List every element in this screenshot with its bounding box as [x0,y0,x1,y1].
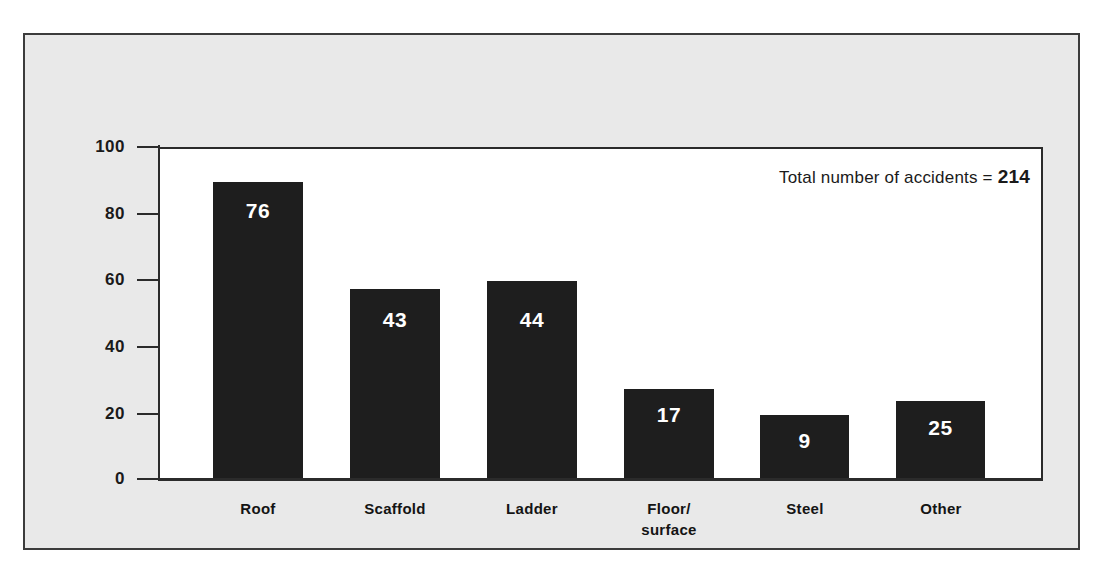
y-tick-label-0: 0 [51,469,125,489]
bar-scaffold: 43 [350,289,440,478]
y-tick-label-20: 20 [51,404,125,424]
category-label-other: Other [881,498,1001,519]
bar-value-roof: 76 [213,199,303,223]
y-tick-mark-0 [137,478,159,480]
category-label-steel-line1: Steel [745,498,865,519]
y-tick-label-80: 80 [51,204,125,224]
bar-steel: 9 [760,415,849,478]
bar-value-ladder: 44 [487,308,577,332]
bar-ladder: 44 [487,281,577,478]
y-tick-label-40: 40 [51,337,125,357]
category-label-steel: Steel [745,498,865,519]
category-label-ladder: Ladder [472,498,592,519]
bar-floor-surface: 17 [624,389,714,478]
category-label-ladder-line1: Ladder [472,498,592,519]
figure: 100 80 60 40 20 0 76 43 44 17 9 25 [0,0,1101,577]
category-label-scaffold: Scaffold [335,498,455,519]
y-tick-mark-40 [137,346,159,348]
y-tick-label-100: 100 [51,137,125,157]
chart-panel: 100 80 60 40 20 0 76 43 44 17 9 25 [23,33,1080,550]
y-axis-line [158,145,160,481]
bar-roof: 76 [213,182,303,478]
y-tick-mark-60 [137,279,159,281]
y-tick-label-60: 60 [51,270,125,290]
total-accidents-text: Total number of accidents = [779,168,993,187]
total-accidents-value: 214 [998,166,1030,187]
y-tick-mark-20 [137,413,159,415]
bar-value-scaffold: 43 [350,308,440,332]
y-tick-mark-80 [137,213,159,215]
category-label-floor-surface-line2: surface [609,519,729,540]
bar-other: 25 [896,401,985,478]
category-label-roof-line1: Roof [198,498,318,519]
category-label-roof: Roof [198,498,318,519]
bar-value-floor-surface: 17 [624,403,714,427]
category-label-floor-surface-line1: Floor/ [609,498,729,519]
total-accidents-annotation: Total number of accidents = 214 [779,166,1030,188]
bar-value-steel: 9 [760,429,849,453]
y-tick-mark-100 [137,146,159,148]
category-label-floor-surface: Floor/ surface [609,498,729,540]
bar-value-other: 25 [896,416,985,440]
x-axis-line [158,478,1043,481]
category-label-scaffold-line1: Scaffold [335,498,455,519]
category-label-other-line1: Other [881,498,1001,519]
